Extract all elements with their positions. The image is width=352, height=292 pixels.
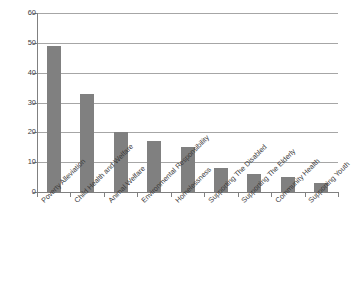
y-tick-label: 10: [28, 158, 36, 166]
y-tick-label: 40: [28, 69, 36, 77]
bar: [47, 46, 61, 192]
y-tick-label: 20: [28, 128, 36, 136]
y-tick-label: 60: [28, 9, 36, 17]
y-tick-label: 30: [28, 99, 36, 107]
y-axis-line: [37, 13, 38, 193]
y-tick-label: 50: [28, 39, 36, 47]
gridline: [37, 13, 338, 14]
x-axis-labels: Poverty AlleviationChild Health and Welf…: [0, 192, 349, 292]
gridline: [37, 73, 338, 74]
gridline: [37, 43, 338, 44]
